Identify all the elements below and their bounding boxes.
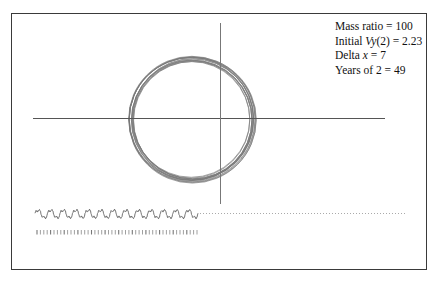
legend-line-mass-ratio: Mass ratio = 100 xyxy=(335,19,422,34)
legend-line-years: Years of 2 = 49 xyxy=(335,63,422,78)
orbit-ring xyxy=(129,56,257,183)
time-ticks xyxy=(37,230,197,235)
legend-line-delta-x: Delta x = 7 xyxy=(335,48,422,63)
legend: Mass ratio = 100 Initial Vy(2) = 2.23 De… xyxy=(335,19,422,77)
oscillation-trace xyxy=(35,209,198,219)
legend-line-initial-vy: Initial Vy(2) = 2.23 xyxy=(335,34,422,49)
